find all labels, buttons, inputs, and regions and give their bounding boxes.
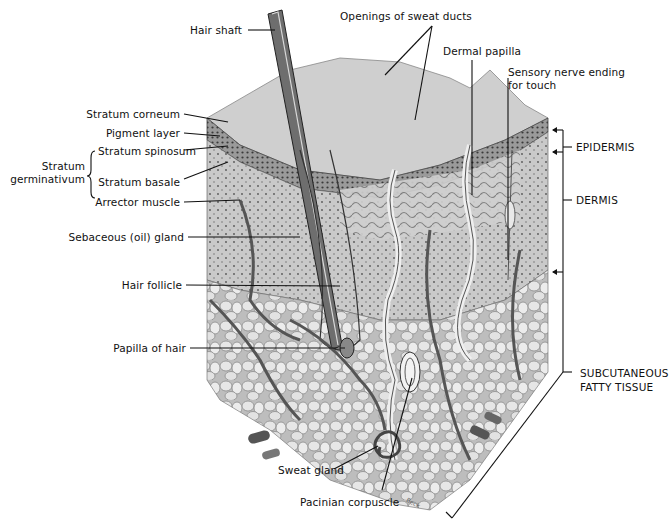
label-openings-of-sweat-ducts: Openings of sweat ducts <box>340 10 472 22</box>
label-dermal-papilla: Dermal papilla <box>443 45 521 57</box>
label-fatty-tissue: FATTY TISSUE <box>580 381 653 393</box>
vessel-cut-2 <box>261 448 280 460</box>
sensory-nerve-ending <box>505 201 515 229</box>
label-hair-shaft: Hair shaft <box>190 24 242 36</box>
label-hair-follicle: Hair follicle <box>122 279 182 291</box>
label-sensory-nerve-ending: Sensory nerve ending <box>508 66 625 78</box>
label-papilla-of-hair: Papilla of hair <box>113 342 186 354</box>
label-pacinian-corpuscle: Pacinian corpuscle <box>300 496 399 508</box>
label-stratum-spinosum: Stratum spinosum <box>98 145 196 157</box>
label-stratum-germinativum-1: Stratum <box>42 160 85 172</box>
label-epidermis: EPIDERMIS <box>576 141 635 153</box>
skin-illustration <box>0 0 672 531</box>
label-dermis: DERMIS <box>576 194 618 206</box>
skin-diagram: Hair shaft Openings of sweat ducts Derma… <box>0 0 672 531</box>
label-for-touch: for touch <box>508 79 556 91</box>
label-sebaceous-gland: Sebaceous (oil) gland <box>68 231 184 243</box>
label-sweat-gland: Sweat gland <box>278 464 344 476</box>
label-pigment-layer: Pigment layer <box>106 127 180 139</box>
label-stratum-germinativum-2: germinativum <box>10 173 85 185</box>
label-arrector-muscle: Arrector muscle <box>95 196 180 208</box>
label-stratum-basale: Stratum basale <box>98 176 180 188</box>
label-stratum-corneum: Stratum corneum <box>86 108 180 120</box>
vessel-cut-1 <box>247 429 271 444</box>
label-subcutaneous: SUBCUTANEOUS <box>580 367 669 379</box>
